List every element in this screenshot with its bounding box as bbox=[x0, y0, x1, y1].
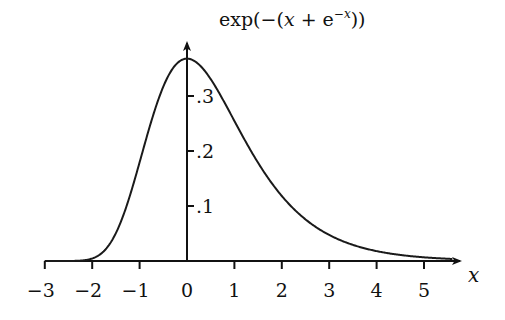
x-tick-label: −2 bbox=[74, 279, 102, 301]
x-tick-label: 0 bbox=[181, 279, 193, 301]
function-label: exp(−(x + e−x)) bbox=[219, 7, 366, 30]
x-tick-label: −1 bbox=[122, 279, 150, 301]
y-tick-label: .3 bbox=[196, 85, 214, 107]
x-axis-label: x bbox=[468, 263, 479, 287]
y-axis-ticks: .1.2.3 bbox=[187, 85, 214, 217]
density-curve bbox=[45, 59, 453, 261]
y-tick-label: .2 bbox=[196, 140, 214, 162]
x-tick-label: 1 bbox=[228, 279, 240, 301]
x-axis-ticks: −3−2−1012345 bbox=[27, 261, 430, 301]
y-tick-label: .1 bbox=[196, 195, 214, 217]
x-tick-label: 4 bbox=[371, 279, 383, 301]
x-tick-label: 2 bbox=[276, 279, 288, 301]
x-tick-label: 3 bbox=[323, 279, 335, 301]
x-tick-label: 5 bbox=[418, 279, 430, 301]
x-tick-label: −3 bbox=[27, 279, 55, 301]
gumbel-density-chart: −3−2−1012345 .1.2.3 exp(−(x + e−x)) x bbox=[0, 0, 505, 320]
